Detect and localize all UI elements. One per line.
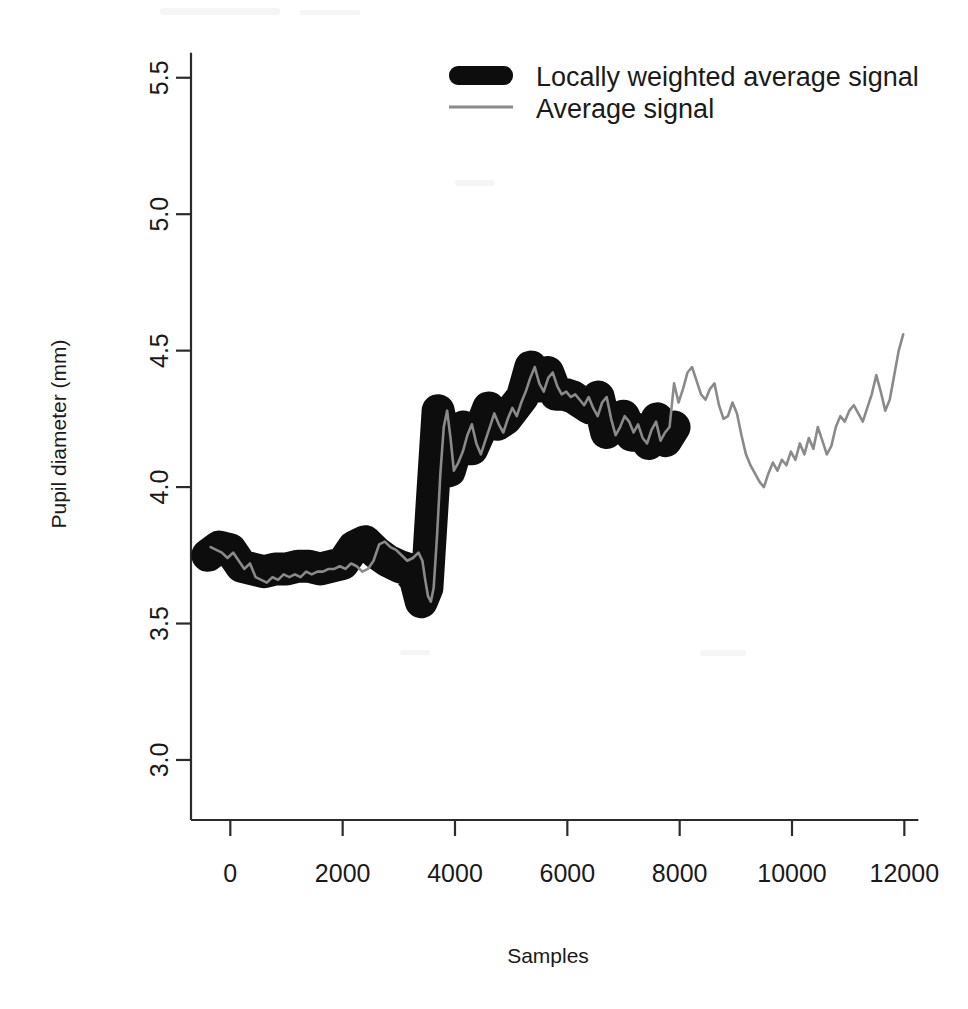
- x-tick-label: 4000: [427, 859, 483, 887]
- x-tick-label: 0: [223, 859, 237, 887]
- y-tick-label: 3.5: [145, 606, 173, 641]
- x-tick-label: 8000: [652, 859, 708, 887]
- y-tick-label: 3.0: [145, 743, 173, 778]
- legend-swatch-thick-line: [449, 66, 513, 85]
- y-tick-label: 5.5: [145, 60, 173, 95]
- legend-label-locally-weighted-average-signal: Locally weighted average signal: [536, 62, 919, 92]
- chart-figure: 3.03.54.04.55.05.5 020004000600080001000…: [0, 0, 968, 1009]
- y-tick-label: 5.0: [145, 197, 173, 232]
- x-tick-label: 10000: [757, 859, 827, 887]
- y-axis-title: Pupil diameter (mm): [47, 339, 70, 528]
- legend-label-average-signal: Average signal: [536, 94, 714, 124]
- y-tick-label: 4.0: [145, 470, 173, 505]
- x-axis-title: Samples: [507, 944, 589, 967]
- x-tick-label: 6000: [540, 859, 596, 887]
- y-tick-label: 4.5: [145, 333, 173, 368]
- x-tick-label: 12000: [870, 859, 940, 887]
- x-tick-label: 2000: [315, 859, 371, 887]
